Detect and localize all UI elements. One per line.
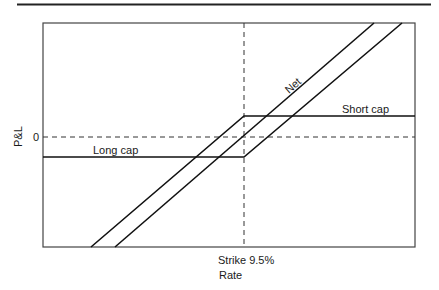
y-tick-zero: 0 (33, 131, 39, 143)
x-axis-label: Rate (219, 269, 242, 281)
series-long-cap (43, 23, 402, 157)
long-cap-label: Long cap (93, 144, 138, 156)
x-tick-strike: Strike 9.5% (218, 254, 274, 266)
short-cap-label: Short cap (342, 103, 389, 115)
plot-frame (43, 23, 415, 247)
y-axis-label: P&L (12, 126, 24, 147)
payoff-chart: Net P&L (0, 0, 439, 290)
net-label: Net (282, 75, 303, 95)
series-short-cap (91, 116, 415, 247)
